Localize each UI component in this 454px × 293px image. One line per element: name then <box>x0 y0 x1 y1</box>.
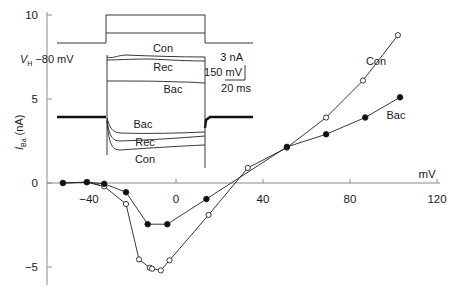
inset-label-con-top: Con <box>153 42 173 54</box>
data-point-con <box>150 266 155 271</box>
data-point-bac <box>60 180 66 186</box>
data-point-con <box>360 78 365 83</box>
y-tick-label: 0 <box>32 177 38 189</box>
inset-label-rec-bottom: Rec <box>135 136 155 148</box>
inset-label-con-bottom: Con <box>135 153 155 165</box>
trace-inward-con <box>107 121 205 150</box>
data-point-con <box>158 268 163 273</box>
x-tick-label: 0 <box>173 193 179 205</box>
y-tick-label: 5 <box>32 93 38 105</box>
data-point-bac <box>101 181 107 187</box>
x-tick-label: 40 <box>257 193 270 205</box>
iv-curve-chart: −50510 −4004080120 mV IBa(nA) VH−80 mV C… <box>0 0 454 293</box>
voltage-command-trace-outer <box>57 15 253 43</box>
data-point-con <box>395 33 400 38</box>
data-point-bac <box>284 144 290 150</box>
inset-label-bac-top: Bac <box>164 83 183 95</box>
series-label-con: Con <box>366 55 386 67</box>
data-point-con <box>206 212 211 217</box>
baseline-current-right <box>205 117 253 128</box>
scale-bar-time-label: 20 ms <box>221 82 251 94</box>
x-tick-label: −40 <box>79 193 99 205</box>
data-point-bac <box>397 95 403 101</box>
trace-outward-bac <box>107 81 205 83</box>
trace-inward-rec <box>107 120 205 141</box>
x-axis-label: mV <box>418 168 436 180</box>
y-axis-label-unit: (nA) <box>13 115 25 136</box>
series-label-bac: Bac <box>387 109 406 121</box>
data-point-bac <box>145 221 151 227</box>
y-axis-label-sub: Ba <box>20 138 27 147</box>
y-tick-label: 10 <box>25 9 38 21</box>
svg-text:IBa(nA): IBa(nA) <box>13 115 27 150</box>
scale-bar-current-label: 3 nA <box>220 51 243 63</box>
trace-outward-con <box>107 55 205 58</box>
trace-inward-bac <box>107 118 205 133</box>
series-bac <box>60 95 403 228</box>
x-tick-label: 120 <box>427 193 446 205</box>
data-point-bac <box>123 189 129 195</box>
y-axis-label: IBa(nA) <box>13 115 27 150</box>
data-point-bac <box>323 132 329 138</box>
x-tick-label: 80 <box>344 193 357 205</box>
y-tick-label: −5 <box>25 261 38 273</box>
y-axis: −50510 <box>25 9 52 285</box>
scale-bar-voltage-label: 150 mV <box>204 66 243 78</box>
data-point-con <box>245 165 250 170</box>
holding-potential-label: VH−80 mV <box>20 53 74 67</box>
data-point-con <box>167 258 172 263</box>
data-point-bac <box>362 115 368 121</box>
inset-label-rec-top: Rec <box>153 61 173 73</box>
data-point-bac <box>165 221 171 227</box>
data-point-bac <box>204 196 210 202</box>
data-point-bac <box>84 179 90 185</box>
inset-current-traces: VH−80 mV Con Rec Bac Bac Rec Con 3 nA 15… <box>20 15 253 168</box>
inset-label-bac-bottom: Bac <box>134 118 153 130</box>
data-point-con <box>324 115 329 120</box>
data-point-con <box>136 257 141 262</box>
data-point-con <box>123 201 128 206</box>
